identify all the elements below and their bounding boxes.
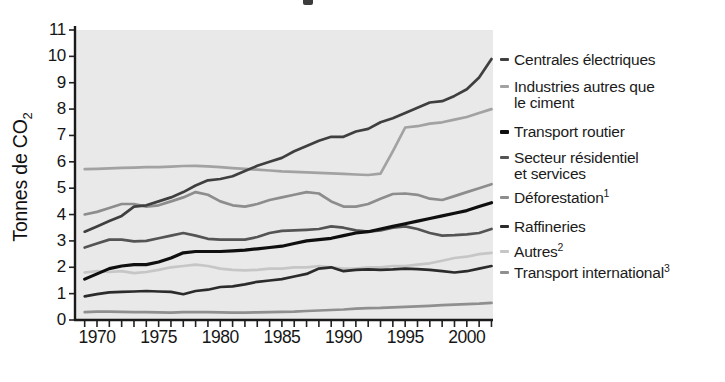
legend-label: Autres	[514, 243, 558, 260]
plot-area	[76, 30, 493, 320]
x-tick-label: 1990	[319, 327, 369, 348]
co2-emissions-line-chart: Tonnes de CO2 01234567891011197019751980…	[0, 0, 725, 382]
legend-item-centrales-electriques: Centrales électriques	[496, 52, 724, 68]
legend-dash-icon	[500, 156, 509, 159]
x-tick-label: 1980	[195, 327, 245, 348]
legend-dash-icon	[500, 250, 509, 253]
legend-item-industries-autres-que-le-ciment: Industries autres quele ciment	[496, 79, 724, 111]
y-tick-label: 1	[0, 284, 66, 304]
legend-item-deforestation: Déforestation1	[496, 190, 724, 206]
legend-label: Transport international	[514, 264, 664, 281]
x-tick-label: 1975	[134, 327, 184, 348]
y-tick-label: 8	[0, 99, 66, 119]
legend-dash-icon	[500, 85, 509, 88]
legend-item-secteur-residentiel-et-services: Secteur résidentielet services	[496, 150, 724, 182]
legend-item-transport-international: Transport international3	[496, 265, 724, 281]
x-tick-label: 2000	[442, 327, 492, 348]
legend-item-autres: Autres2	[496, 244, 724, 260]
x-tick-label: 1970	[72, 327, 122, 348]
legend-dash-icon	[500, 196, 509, 199]
y-tick-label: 10	[0, 46, 66, 66]
y-tick-label: 5	[0, 178, 66, 198]
legend-dash-icon	[500, 271, 509, 274]
legend: Centrales électriques Industries autres …	[496, 0, 725, 382]
y-tick-label: 7	[0, 125, 66, 145]
y-tick-label: 3	[0, 231, 66, 251]
legend-item-transport-routier: Transport routier	[496, 124, 724, 140]
y-tick-label: 6	[0, 152, 66, 172]
x-tick-label: 1995	[380, 327, 430, 348]
y-tick-label: 9	[0, 73, 66, 93]
legend-label: Secteur résidentiel	[514, 149, 639, 166]
legend-label: Raffineries	[514, 218, 586, 235]
legend-dash-icon	[500, 58, 509, 61]
y-tick-label: 2	[0, 257, 66, 277]
y-tick-label: 11	[0, 20, 66, 40]
legend-label: Déforestation	[514, 189, 604, 206]
legend-item-raffineries: Raffineries	[496, 219, 724, 235]
y-tick-label: 0	[0, 310, 66, 330]
legend-dash-icon	[500, 130, 509, 134]
legend-label: Transport routier	[514, 123, 625, 140]
legend-dash-icon	[500, 225, 509, 228]
legend-label: Centrales électriques	[514, 51, 655, 68]
legend-label: Industries autres que	[514, 78, 655, 95]
x-tick-label: 1985	[257, 327, 307, 348]
y-tick-label: 4	[0, 205, 66, 225]
